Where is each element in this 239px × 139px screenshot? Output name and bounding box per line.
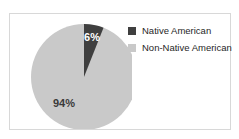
pie-chart-screenshot: 6% 94% Native American Non-Native Americ… [0, 0, 239, 139]
legend-swatch-non-native-american [128, 44, 136, 52]
cut-off-text-above-figure [10, 0, 160, 5]
pie-data-label-non-native-american: 94% [53, 97, 75, 109]
pie-data-label-native-american: 6% [84, 31, 100, 43]
chart-frame: 6% 94% Native American Non-Native Americ… [9, 13, 231, 130]
legend-swatch-native-american [128, 27, 136, 35]
plot-area: 6% 94% Native American Non-Native Americ… [10, 14, 230, 129]
chart-legend: Native American Non-Native American [128, 23, 228, 57]
legend-item-non-native-american: Non-Native American [128, 40, 228, 55]
legend-item-native-american: Native American [128, 23, 228, 38]
pie-svg: 6% 94% [16, 14, 132, 129]
pie-slice-non-native-american [31, 24, 132, 129]
legend-label-native-american: Native American [142, 25, 211, 36]
pie-chart: 6% 94% [16, 14, 132, 129]
legend-label-non-native-american: Non-Native American [142, 42, 232, 53]
